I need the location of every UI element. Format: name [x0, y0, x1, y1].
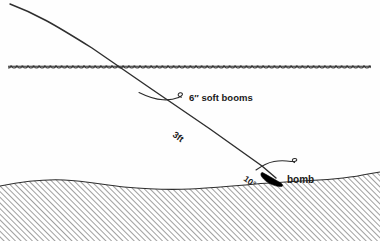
cable-length-label: 3ft	[171, 129, 186, 144]
bomb-callout: bomb	[256, 158, 314, 185]
boom-cable-line	[10, 4, 276, 178]
seabed-hatch-fill	[0, 165, 380, 241]
cable-length-callout: 3ft	[171, 129, 186, 144]
bomb-label: bomb	[287, 174, 314, 185]
water-surface-scallops	[8, 63, 371, 72]
soft-booms-label: 6″ soft booms	[189, 92, 253, 103]
soft-booms-callout: 6″ soft booms	[139, 92, 253, 103]
water-surface	[8, 63, 371, 72]
soft-booms-leader-curl	[178, 93, 182, 98]
seabed-region	[0, 165, 380, 241]
technical-diagram: 6″ soft booms 3ft bomb 10°	[0, 0, 380, 241]
bomb-leader-curl	[291, 158, 297, 162]
diagram-canvas: 6″ soft booms 3ft bomb 10°	[0, 0, 380, 241]
